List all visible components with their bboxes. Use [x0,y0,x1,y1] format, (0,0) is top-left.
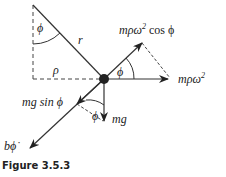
phi-label-bottom: ϕ [92,110,98,122]
figure-caption: Figure 3.5.3 [2,160,70,171]
centripetal-component-label: mρω2 cos ϕ [119,24,174,36]
centripetal-label: mρω2 [178,73,205,85]
gravity-projection-dashed [77,104,103,121]
r-rod [33,5,104,79]
bead [99,74,109,84]
phi-arc-right [126,58,134,79]
gravity-label: mg [112,113,127,125]
damping-label: bϕ̇ [4,140,16,152]
phi-label-top: ϕ [37,22,43,34]
phi-arc-bottom [86,100,104,105]
r-label: r [78,34,83,46]
gravity-component-label: mg sin ϕ [22,96,63,108]
force-diagram [0,0,226,177]
phi-label-right: ϕ [117,66,123,78]
projection-dashed-line [142,43,170,78]
figure-3-5-3: ϕ r ρ ϕ ϕ mρω2 cos ϕ mρω2 mg sin ϕ mg bϕ… [0,0,226,177]
rho-label: ρ [53,64,59,76]
